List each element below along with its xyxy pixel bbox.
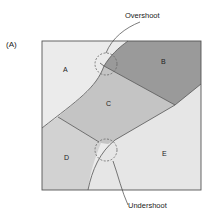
region-label-d: D bbox=[64, 154, 69, 161]
region-label-c: C bbox=[106, 100, 111, 107]
polygon-topology-diagram: (A) Overshoot Undershoot A B C D E bbox=[0, 0, 212, 218]
undershoot-label: Undershoot bbox=[128, 201, 168, 210]
panel-label: (A) bbox=[6, 40, 17, 49]
overshoot-label: Overshoot bbox=[125, 11, 161, 20]
region-label-e: E bbox=[162, 150, 167, 157]
region-label-b: B bbox=[161, 58, 166, 65]
region-label-a: A bbox=[63, 66, 68, 73]
